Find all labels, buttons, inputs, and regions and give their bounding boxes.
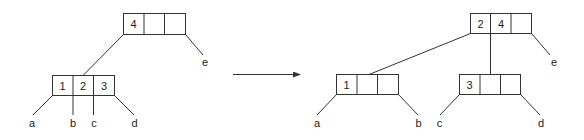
after-root-key-1: 2 [477,18,483,30]
edge-to-a [317,95,337,116]
edge-to-c [440,95,460,116]
before-child-key-1: 1 [59,80,65,92]
after-tree [317,14,550,116]
after-root-key-2: 4 [498,18,504,30]
edge-to-d [521,95,541,116]
before-label-e: e [202,56,208,68]
edge-to-b [399,95,419,116]
after-label-b: b [415,117,421,129]
before-child-key-3: 3 [101,80,107,92]
b-tree-diagram: 4 1 2 3 a b c d e [0,0,584,140]
before-child-key-2: 2 [80,80,86,92]
after-label-a: a [314,117,321,129]
after-left-key-1: 1 [343,79,349,91]
edge-root-to-child [83,35,124,76]
before-label-c: c [91,117,97,129]
edge-to-d [115,96,135,116]
after-label-d: d [538,117,544,129]
after-label-e: e [551,56,557,68]
edge-to-a [33,96,53,116]
edge-root-to-left-child [369,34,471,75]
before-label-d: d [131,117,137,129]
after-label-c: c [437,117,443,129]
after-text: 2 4 1 3 a b c d e [314,18,557,130]
edge-root-to-e [532,34,551,56]
before-tree [33,14,203,116]
before-root-key-1: 4 [130,18,136,30]
before-label-a: a [29,117,36,129]
after-right-key-1: 3 [466,79,472,91]
before-label-b: b [70,117,76,129]
edge-root-to-e [186,35,204,56]
